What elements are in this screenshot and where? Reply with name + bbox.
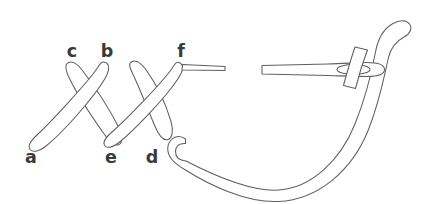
label-f: f: [177, 41, 185, 61]
label-b: b: [101, 41, 114, 61]
needle: [262, 63, 385, 77]
label-e: e: [105, 147, 117, 167]
label-d: d: [146, 147, 159, 167]
stitch-group-2: [104, 61, 225, 147]
cross-stitch-diagram: c b f a e d: [0, 0, 424, 204]
label-a: a: [25, 147, 37, 167]
thread-tail-at-f: [182, 65, 225, 71]
working-thread: [168, 21, 411, 202]
working-thread-path: [168, 21, 411, 202]
diagram-canvas: c b f a e d: [0, 0, 424, 204]
label-c: c: [67, 41, 77, 61]
